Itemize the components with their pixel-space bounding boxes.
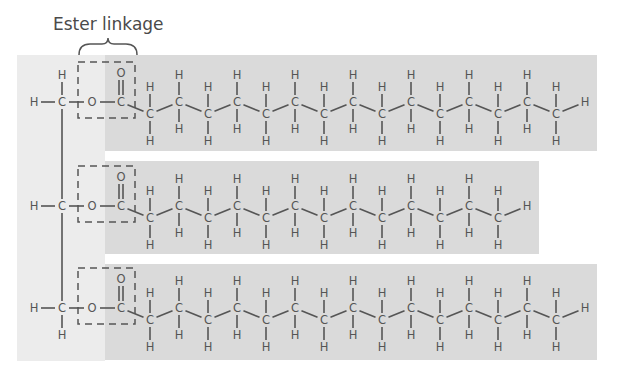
hydrogen-atom: H [465, 328, 474, 342]
ester-linkage-brace [79, 38, 137, 55]
hydrogen-atom: H [204, 340, 213, 354]
carbon-atom: C [233, 199, 241, 213]
hydrogen-atom: H [175, 68, 184, 82]
hydrogen-atom: H [523, 274, 532, 288]
hydrogen-atom: H [494, 340, 503, 354]
hydrogen-atom: H [494, 286, 503, 300]
oxygen-atom: O [87, 301, 96, 315]
hydrogen-atom: H [378, 80, 387, 94]
carbon-atom: C [58, 301, 66, 315]
hydrogen-atom: H [30, 95, 39, 109]
hydrogen-atom: H [407, 328, 416, 342]
hydrogen-atom: H [407, 172, 416, 186]
hydrogen-atom: H [378, 134, 387, 148]
carbon-atom: C [552, 313, 560, 327]
carbon-atom: C [262, 313, 270, 327]
carbon-atom: C [378, 107, 386, 121]
carbon-atom: C [494, 107, 502, 121]
carbon-atom: C [349, 301, 357, 315]
hydrogen-atom: H [233, 122, 242, 136]
carbon-atom: C [58, 199, 66, 213]
hydrogen-atom: H [233, 68, 242, 82]
hydrogen-atom: H [204, 286, 213, 300]
carbon-atom: C [494, 211, 502, 225]
hydrogen-atom: H [407, 274, 416, 288]
triglyceride-diagram: CHHCHCHHOCOCHHCHHCHHCHHCHHCHHCHHCHHCHHCH… [0, 0, 627, 375]
hydrogen-atom: H [58, 68, 67, 82]
carbon-atom: C [175, 199, 183, 213]
hydrogen-atom: H [436, 340, 445, 354]
carbon-atom: C [291, 301, 299, 315]
carbon-atom: C [204, 313, 212, 327]
carbon-atom: C [175, 301, 183, 315]
carbon-atom: C [465, 301, 473, 315]
hydrogen-atom: H [175, 328, 184, 342]
hydrogen-atom: H [523, 68, 532, 82]
carbon-atom: C [58, 95, 66, 109]
carbon-atom: C [552, 107, 560, 121]
hydrogen-atom: H [233, 328, 242, 342]
carbon-atom: C [291, 199, 299, 213]
hydrogen-atom: H [233, 172, 242, 186]
carbonyl-carbon: C [117, 95, 125, 109]
hydrogen-atom: H [378, 184, 387, 198]
hydrogen-atom: H [262, 286, 271, 300]
carbon-atom: C [523, 301, 531, 315]
hydrogen-atom: H [146, 238, 155, 252]
hydrogen-atom: H [523, 122, 532, 136]
carbon-atom: C [175, 95, 183, 109]
carbon-atom: C [204, 107, 212, 121]
hydrogen-atom: H [436, 286, 445, 300]
carbon-atom: C [465, 95, 473, 109]
hydrogen-atom: H [436, 80, 445, 94]
carbon-atom: C [262, 107, 270, 121]
carbon-atom: C [436, 107, 444, 121]
carbon-atom: C [436, 313, 444, 327]
carbon-atom: C [407, 199, 415, 213]
hydrogen-atom: H [320, 80, 329, 94]
hydrogen-atom: H [494, 184, 503, 198]
hydrogen-atom: H [291, 328, 300, 342]
carbonyl-oxygen: O [116, 170, 125, 184]
hydrogen-atom: H [204, 238, 213, 252]
carbonyl-carbon: C [117, 199, 125, 213]
hydrogen-atom: H [378, 238, 387, 252]
hydrogen-atom: H [552, 286, 561, 300]
hydrogen-atom: H [349, 122, 358, 136]
hydrogen-atom: H [349, 68, 358, 82]
hydrogen-atom: H [175, 122, 184, 136]
carbon-atom: C [146, 211, 154, 225]
carbon-atom: C [378, 211, 386, 225]
hydrogen-atom: H [291, 122, 300, 136]
hydrogen-atom: H [146, 134, 155, 148]
carbon-atom: C [262, 211, 270, 225]
hydrogen-atom: H [436, 134, 445, 148]
hydrogen-atom: H [320, 286, 329, 300]
hydrogen-atom: H [552, 134, 561, 148]
hydrogen-atom: H [407, 68, 416, 82]
hydrogen-atom: H [204, 184, 213, 198]
hydrogen-atom: H [378, 286, 387, 300]
hydrogen-atom: H [320, 134, 329, 148]
carbon-atom: C [407, 95, 415, 109]
hydrogen-atom: H [378, 340, 387, 354]
carbon-atom: C [494, 313, 502, 327]
carbon-atom: C [146, 107, 154, 121]
carbonyl-carbon: C [117, 301, 125, 315]
hydrogen-atom: H [30, 301, 39, 315]
hydrogen-atom: H [320, 184, 329, 198]
hydrogen-atom: H [30, 199, 39, 213]
carbon-atom: C [320, 211, 328, 225]
carbonyl-oxygen: O [116, 66, 125, 80]
carbon-atom: C [146, 313, 154, 327]
hydrogen-atom: H [407, 226, 416, 240]
hydrogen-atom: H [204, 80, 213, 94]
carbon-atom: C [291, 95, 299, 109]
hydrogen-atom: H [233, 226, 242, 240]
oxygen-atom: O [87, 199, 96, 213]
carbon-atom: C [465, 199, 473, 213]
hydrogen-atom: H [146, 340, 155, 354]
hydrogen-atom: H [349, 328, 358, 342]
hydrogen-atom: H [146, 184, 155, 198]
carbon-atom: C [349, 95, 357, 109]
